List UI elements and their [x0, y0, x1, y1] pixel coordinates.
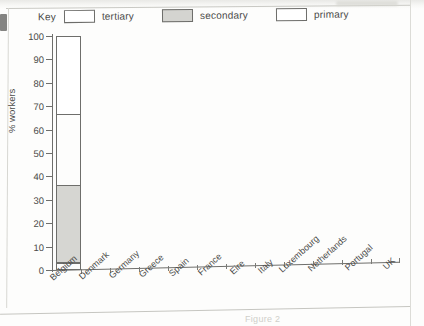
x-tick-uk: [399, 258, 400, 263]
x-label-eire: Eire: [228, 258, 247, 276]
scanned-page: Key tertiary secondary primary 100 90 80…: [0, 0, 424, 326]
y-tick-100: [46, 36, 52, 37]
y-tick-label-80: 80: [22, 78, 44, 89]
x-tick-portugal: [371, 259, 372, 264]
y-tick-label-90: 90: [22, 54, 44, 65]
y-tick-label-60: 60: [22, 125, 44, 136]
x-label-denmark: Denmark: [77, 250, 111, 282]
x-label-italy: Italy: [256, 257, 275, 275]
x-label-portugal: Portugal: [343, 243, 375, 273]
y-tick-80: [46, 83, 52, 84]
y-tick-label-100: 100: [22, 31, 44, 42]
y-tick-label-0: 0: [22, 265, 44, 276]
x-label-france: France: [196, 251, 224, 277]
y-tick-40: [46, 176, 52, 177]
y-tick-label-10: 10: [22, 242, 44, 253]
y-tick-50: [46, 153, 52, 154]
y-tick-90: [46, 59, 52, 60]
y-tick-label-20: 20: [22, 218, 44, 229]
figure-caption: Figure 2: [245, 314, 280, 324]
y-axis-title: % workers: [6, 89, 17, 133]
bar-belgium-tertiary-outline: [56, 36, 81, 185]
y-tick-60: [46, 130, 52, 131]
y-tick-label-40: 40: [22, 171, 44, 182]
x-label-germany: Germany: [107, 248, 141, 280]
x-label-uk: UK: [381, 256, 397, 272]
y-tick-70: [46, 106, 52, 107]
y-tick-30: [46, 200, 52, 201]
y-axis-line: [52, 34, 53, 272]
x-label-greece: Greece: [137, 252, 166, 279]
y-tick-label-30: 30: [22, 195, 44, 206]
y-tick-20: [46, 223, 52, 224]
y-tick-label-70: 70: [22, 101, 44, 112]
chart-plot-area: 100 90 80 70 60 50 40 30 20 10 0 % worke…: [0, 0, 424, 326]
bar-belgium-secondary: [56, 185, 81, 263]
y-tick-10: [46, 247, 52, 248]
y-tick-label-50: 50: [22, 148, 44, 159]
